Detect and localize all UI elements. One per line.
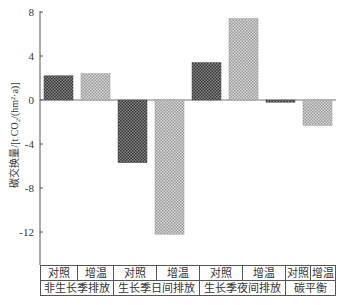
treatment-label: 增温 bbox=[157, 266, 200, 281]
bars bbox=[44, 19, 332, 235]
bar bbox=[81, 74, 110, 100]
group-label: 生长季夜间排放 bbox=[200, 281, 286, 296]
treatment-label: 对照 bbox=[114, 266, 157, 281]
treatment-label: 对照 bbox=[285, 266, 310, 281]
treatment-label: 对照 bbox=[200, 266, 243, 281]
group-label: 非生长季排放 bbox=[41, 281, 114, 296]
treatment-label: 增温 bbox=[242, 266, 285, 281]
y-tick-label: 0 bbox=[29, 94, 35, 106]
treatment-label: 增温 bbox=[310, 266, 335, 281]
y-tick-label: 8 bbox=[29, 6, 35, 18]
bar bbox=[229, 19, 258, 100]
bar bbox=[118, 100, 147, 163]
bar bbox=[44, 76, 73, 100]
treatment-label: 增温 bbox=[77, 266, 114, 281]
bar-chart: 840-4-8-12 bbox=[0, 0, 341, 305]
bar bbox=[266, 100, 295, 102]
y-tick-label: -4 bbox=[25, 138, 35, 150]
group-row: 非生长季排放 生长季日间排放 生长季夜间排放 碳平衡 bbox=[41, 281, 336, 296]
y-axis-label: 碳交换量/[t CO₂/(hm²·a)] bbox=[6, 70, 20, 200]
treatment-row: 对照 增温 对照 增温 对照 增温 对照 增温 bbox=[41, 266, 336, 281]
bar bbox=[303, 100, 332, 125]
group-label: 生长季日间排放 bbox=[114, 281, 200, 296]
y-tick-label: -8 bbox=[25, 182, 35, 194]
y-tick-label: 4 bbox=[29, 50, 35, 62]
y-tick-label: -12 bbox=[19, 226, 34, 238]
bar bbox=[192, 63, 221, 100]
bar bbox=[155, 100, 184, 234]
group-label: 碳平衡 bbox=[285, 281, 335, 296]
category-table: 对照 增温 对照 增温 对照 增温 对照 增温 非生长季排放 生长季日间排放 生… bbox=[40, 265, 336, 296]
treatment-label: 对照 bbox=[41, 266, 78, 281]
